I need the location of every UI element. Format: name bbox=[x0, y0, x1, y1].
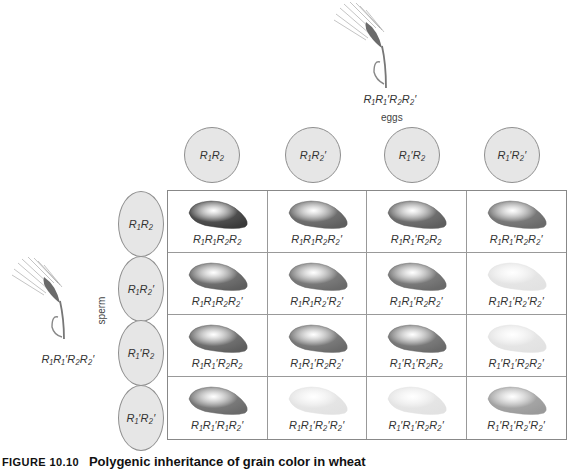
egg-gamete: R₁′R₂′ bbox=[484, 127, 540, 183]
wheat-grain-icon bbox=[384, 261, 452, 293]
offspring-genotype: R₁R₁′R₂R₂′ bbox=[367, 295, 466, 307]
caption-text: Polygenic inheritance of grain color in … bbox=[89, 454, 366, 469]
sperm-gamete: R₁′R₂ bbox=[118, 320, 164, 386]
offspring-genotype: R₁R₁′R₂R₂′ bbox=[268, 357, 367, 369]
sperm-label: sperm bbox=[96, 297, 107, 325]
sperm-gamete-label: R₁R₂′ bbox=[128, 283, 155, 295]
punnett-cell: R₁′R₁′R₂R₂′ bbox=[467, 315, 567, 377]
egg-gamete-label: R₁R₂′ bbox=[300, 149, 327, 161]
wheat-grain-icon bbox=[285, 323, 353, 355]
figure-caption: FIGURE 10.10Polygenic inheritance of gra… bbox=[2, 454, 366, 469]
wheat-plant-icon bbox=[8, 255, 78, 345]
offspring-genotype: R₁R₁′R₂R₂ bbox=[367, 233, 466, 245]
offspring-genotype: R₁R₁′R₁R₂′ bbox=[168, 419, 267, 431]
punnett-cell: R₁R₁′R₂R₂ bbox=[367, 191, 467, 253]
punnett-cell: R₁R₁′R₂′R₂′ bbox=[467, 253, 567, 315]
punnett-cell: R₁R₁′R₂R₂′ bbox=[268, 315, 368, 377]
left-wheat-plant bbox=[8, 255, 78, 349]
punnett-cell: R₁R₁R₂R₂′ bbox=[268, 191, 368, 253]
wheat-grain-icon bbox=[185, 323, 253, 355]
offspring-genotype: R₁′R₁′R₂′R₂′ bbox=[467, 419, 567, 431]
punnett-cell: R₁′R₁′R₂′R₂′ bbox=[467, 377, 567, 439]
punnett-cell: R₁R₁′R₂′R₂′ bbox=[268, 377, 368, 439]
top-wheat-plant bbox=[330, 0, 400, 94]
offspring-genotype: R₁R₁′R₂′R₂′ bbox=[268, 419, 367, 431]
sperm-gamete-label: R₁′R₂ bbox=[128, 347, 155, 359]
sperm-gamete: R₁R₂ bbox=[118, 191, 164, 257]
figure-number: FIGURE 10.10 bbox=[2, 456, 79, 468]
egg-gamete-label: R₁R₂ bbox=[200, 149, 224, 161]
punnett-cell: R₁R₁′R₂R₂′ bbox=[367, 253, 467, 315]
offspring-genotype: R₁R₁R₂R₂ bbox=[168, 233, 267, 245]
egg-gamete-label: R₁′R₂ bbox=[399, 149, 426, 161]
wheat-grain-icon bbox=[185, 385, 253, 417]
offspring-genotype: R₁′R₁′R₂R₂ bbox=[367, 357, 466, 369]
punnett-cell: R₁R₁′R₂R₂ bbox=[168, 315, 268, 377]
offspring-genotype: R₁′R₁′R₂R₂′ bbox=[467, 357, 567, 369]
sperm-gamete: R₁R₂′ bbox=[118, 256, 164, 322]
eggs-label: eggs bbox=[381, 112, 403, 123]
wheat-grain-icon bbox=[484, 199, 552, 231]
sperm-gamete-label: R₁′R₂′ bbox=[127, 412, 156, 424]
offspring-genotype: R₁R₁R₂′R₂′ bbox=[268, 295, 367, 307]
wheat-grain-icon bbox=[185, 261, 253, 293]
wheat-grain-icon bbox=[484, 261, 552, 293]
top-parent-genotype: R₁R₁′R₂R₂′ bbox=[350, 93, 430, 105]
punnett-square: R₁R₁R₂R₂R₁R₁R₂R₂′R₁R₁′R₂R₂R₁R₁′R₂R₂′R₁R₁… bbox=[167, 190, 567, 440]
wheat-grain-icon bbox=[285, 199, 353, 231]
punnett-cell: R₁R₁R₂R₂′ bbox=[168, 253, 268, 315]
wheat-plant-icon bbox=[330, 0, 400, 90]
wheat-grain-icon bbox=[285, 385, 353, 417]
sperm-gamete-label: R₁R₂ bbox=[129, 218, 153, 230]
egg-gamete: R₁′R₂ bbox=[384, 127, 440, 183]
wheat-grain-icon bbox=[384, 385, 452, 417]
egg-gamete: R₁R₂ bbox=[184, 127, 240, 183]
offspring-genotype: R₁R₁′R₂R₂′ bbox=[467, 233, 567, 245]
punnett-cell: R₁R₁R₂′R₂′ bbox=[268, 253, 368, 315]
punnett-cell: R₁′R₁′R₂R₂′ bbox=[367, 377, 467, 439]
offspring-genotype: R₁R₁′R₂R₂ bbox=[168, 357, 267, 369]
sperm-gamete: R₁′R₂′ bbox=[118, 385, 164, 451]
wheat-grain-icon bbox=[185, 199, 253, 231]
offspring-genotype: R₁′R₁′R₂R₂′ bbox=[367, 419, 466, 431]
punnett-cell: R₁R₁′R₁R₂′ bbox=[168, 377, 268, 439]
wheat-grain-icon bbox=[384, 323, 452, 355]
offspring-genotype: R₁R₁R₂R₂′ bbox=[168, 295, 267, 307]
punnett-cell: R₁′R₁′R₂R₂ bbox=[367, 315, 467, 377]
egg-gamete-label: R₁′R₂′ bbox=[498, 149, 527, 161]
wheat-grain-icon bbox=[384, 199, 452, 231]
offspring-genotype: R₁R₁R₂R₂′ bbox=[268, 233, 367, 245]
punnett-cell: R₁R₁R₂R₂ bbox=[168, 191, 268, 253]
wheat-grain-icon bbox=[285, 261, 353, 293]
left-parent-genotype: R₁R₁′R₂R₂′ bbox=[28, 353, 108, 365]
offspring-genotype: R₁R₁′R₂′R₂′ bbox=[467, 295, 567, 307]
wheat-grain-icon bbox=[484, 385, 552, 417]
punnett-cell: R₁R₁′R₂R₂′ bbox=[467, 191, 567, 253]
egg-gamete: R₁R₂′ bbox=[285, 127, 341, 183]
wheat-grain-icon bbox=[484, 323, 552, 355]
